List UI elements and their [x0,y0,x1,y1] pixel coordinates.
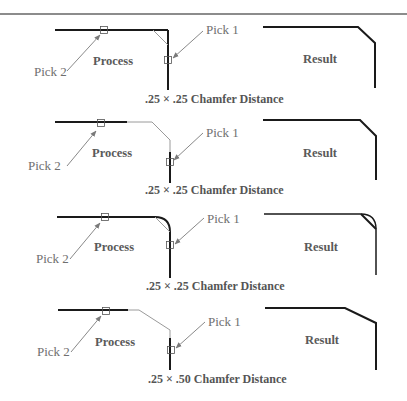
chamfer-caption: .25 × .50 Chamfer Distance [148,372,287,387]
result-label: Result [303,52,337,67]
pick1-arrow-icon [173,31,203,58]
result-label: Result [305,333,339,348]
pick2-label: Pick 2 [28,158,61,174]
pick1-label: Pick 1 [207,211,240,227]
result-label: Result [304,240,338,255]
pick1-arrow-icon [176,322,205,348]
chamfer-caption: .25 × .25 Chamfer Distance [146,279,285,294]
process-label: Process [94,240,134,255]
process-label: Process [95,335,135,350]
process-label: Process [92,146,132,161]
chamfer-diagram: Pick 1 Pick 2 Process Result .25 × .25 C… [0,0,407,401]
chamfer-caption: .25 × .25 Chamfer Distance [145,92,284,107]
pick1-label: Pick 1 [208,314,241,330]
pick1-label: Pick 1 [206,125,239,141]
pick2-label: Pick 2 [37,344,70,360]
pick1-arrow-icon [174,133,203,160]
pick1-arrow-icon [175,218,204,244]
pick2-label: Pick 2 [34,64,67,80]
diagram-geometry [0,0,407,401]
pick2-label: Pick 2 [36,251,69,267]
result-label: Result [303,146,337,161]
pick1-label: Pick 1 [206,22,239,38]
process-label: Process [93,54,133,69]
chamfer-caption: .25 × .25 Chamfer Distance [145,183,284,198]
